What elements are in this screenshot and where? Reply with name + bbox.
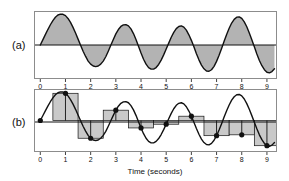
x-tick-label-9: 9 <box>265 156 269 163</box>
x-tick-label-5: 5 <box>164 156 168 163</box>
x-tick-label-1: 1 <box>64 156 68 163</box>
sampling-figure: 0123456789 (a) 0123456789 (b) Time (seco… <box>0 0 289 181</box>
panel-a-label: (a) <box>12 39 25 51</box>
x-tick-label-4: 4 <box>139 156 143 163</box>
x-tick-label-7: 7 <box>215 156 219 163</box>
x-axis-title: Time (seconds) <box>128 167 183 176</box>
x-tick-label-2: 2 <box>89 156 93 163</box>
sample-dot-t6 <box>189 114 194 119</box>
x-tick-label-9: 9 <box>265 83 269 90</box>
x-tick-label-3: 3 <box>114 156 118 163</box>
sample-dot-t5 <box>164 122 169 127</box>
x-tick-label-4: 4 <box>139 83 143 90</box>
x-tick-label-0: 0 <box>38 156 42 163</box>
sample-dot-t8 <box>239 132 244 137</box>
x-tick-label-0: 0 <box>38 83 42 90</box>
x-tick-label-7: 7 <box>215 83 219 90</box>
sample-dot-t0 <box>38 118 43 123</box>
sample-dot-t2 <box>88 136 93 141</box>
sample-dot-t4 <box>138 125 143 130</box>
x-tick-label-5: 5 <box>164 83 168 90</box>
figure-canvas: 0123456789 (a) 0123456789 (b) Time (seco… <box>0 0 289 181</box>
x-tick-label-6: 6 <box>189 83 193 90</box>
sample-dot-t7 <box>214 133 219 138</box>
x-tick-label-6: 6 <box>189 156 193 163</box>
sample-dot-t1 <box>63 91 68 96</box>
x-tick-label-8: 8 <box>240 156 244 163</box>
sample-dot-t3 <box>113 108 118 113</box>
x-tick-label-3: 3 <box>114 83 118 90</box>
sample-dot-t9 <box>264 143 269 148</box>
panel-b-label: (b) <box>12 116 25 128</box>
x-tick-label-1: 1 <box>64 83 68 90</box>
x-tick-label-2: 2 <box>89 83 93 90</box>
x-tick-label-8: 8 <box>240 83 244 90</box>
